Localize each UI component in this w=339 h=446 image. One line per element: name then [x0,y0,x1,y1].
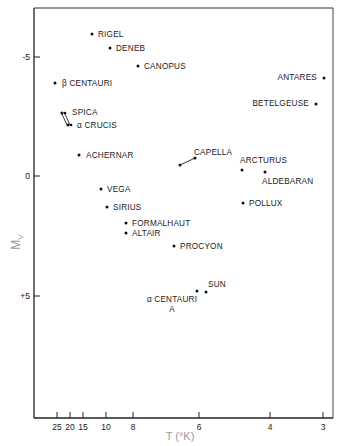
y-tick-label: -5 [22,52,30,62]
star-label: BETELGEUSE [252,99,309,108]
star-point: PROCYON [173,242,223,251]
star-marker-icon [196,290,199,293]
x-tick-label: 8 [131,422,136,432]
star-point: CANOPUS [137,62,187,71]
x-tick-label: 6 [197,422,202,432]
star-label: CAPELLA [194,148,233,157]
star-label: ARCTURUS [240,156,287,165]
star-marker-icon [125,232,128,235]
star-marker-icon [315,103,318,106]
star-marker-icon [137,65,140,68]
star-marker-icon [70,124,73,127]
star-point: CAPELLA [194,148,233,160]
x-axis-ticks: 252015108643 [52,412,325,432]
star-point: ALTAIR [125,229,161,238]
star-label: β CENTAURI [62,79,112,88]
star-label: POLLUX [249,199,283,208]
star-point: DENEB [109,44,146,53]
star-label: ALTAIR [132,229,161,238]
star-label: α CENTAURI [147,295,197,304]
star-point: ALDEBARAN [262,171,313,187]
star-marker-icon [91,33,94,36]
star-label: CANOPUS [144,62,186,71]
star-point: RIGEL [91,30,124,39]
star-point: SIRIUS [106,203,142,212]
star-marker-icon [106,206,109,209]
hr-diagram: -50+5 252015108643 RIGELDENEBCANOPUSβ CE… [0,0,339,446]
x-tick-label: 3 [321,422,326,432]
star-point: FORMALHAUT [125,219,191,228]
star-label: α CRUCIS [77,121,117,130]
star-label: SIRIUS [113,203,142,212]
star-marker-icon [179,164,182,167]
star-marker-icon [264,171,267,174]
star-label: PROCYON [180,242,223,251]
x-tick-label: 20 [65,422,75,432]
star-marker-icon [242,202,245,205]
star-marker-icon [100,188,103,191]
x-tick-label: 10 [101,422,111,432]
star-marker-icon [125,222,128,225]
star-label: RIGEL [98,30,124,39]
star-point: ACHERNAR [78,151,134,160]
y-tick-label: +5 [20,291,30,301]
star-point: β CENTAURI [54,79,113,88]
star-marker-icon [109,47,112,50]
star-label: ANTARES [278,73,318,82]
star-point: VEGA [100,185,131,194]
x-tick-label: 15 [78,422,88,432]
star-point: SUN [205,280,226,294]
star-marker-icon [323,77,326,80]
star-marker-icon [61,112,64,115]
star-point: ANTARES [278,73,326,82]
star-label-line2: A [169,305,175,314]
star-label: FORMALHAUT [132,219,190,228]
star-label: SPICA [72,108,98,117]
star-label: SUN [208,280,226,289]
star-marker-icon [54,82,57,85]
star-point: α CENTAURIA [147,290,199,315]
star-label: ALDEBARAN [262,177,313,186]
star-marker-icon [78,154,81,157]
star-label: ACHERNAR [86,151,134,160]
star-point: α CRUCIS [67,121,118,130]
star-point: POLLUX [242,199,283,208]
x-tick-label: 4 [268,422,273,432]
star-marker-icon [67,124,70,127]
star-point: ARCTURUS [240,156,287,172]
star-marker-icon [173,245,176,248]
star-marker-icon [205,291,208,294]
y-axis-ticks: -50+5 [20,52,40,301]
x-axis-title: T (°K) [166,430,195,442]
x-tick-label: 25 [52,422,62,432]
capella-line [180,158,195,165]
star-label: VEGA [107,185,131,194]
y-tick-label: 0 [25,171,30,181]
star-marker-icon [241,169,244,172]
star-label: DENEB [116,44,146,53]
star-point: BETELGEUSE [252,99,317,108]
y-axis-title: MV [9,234,25,250]
star-marker-icon [64,112,67,115]
data-points: RIGELDENEBCANOPUSβ CENTAURISPICAα CRUCIS… [54,30,326,314]
